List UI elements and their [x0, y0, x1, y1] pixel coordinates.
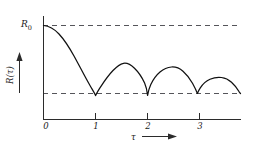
y-axis-label-wrapper: R(τ): [3, 48, 17, 106]
x-tick-label-0: 0: [39, 121, 53, 131]
y-axis-label: R(τ): [5, 52, 15, 98]
x-tick-label-2: 2: [141, 121, 155, 131]
figure-container: R0 R(τ) τ 0 1 2 3: [0, 0, 261, 150]
r0-axis-label: R0: [21, 19, 32, 32]
x-tick-label-1: 1: [89, 121, 103, 131]
y-axis-arrow: [16, 52, 22, 93]
x-tick-label-3: 3: [193, 121, 207, 131]
r0-symbol: R: [21, 19, 28, 29]
r0-subscript: 0: [28, 24, 32, 32]
x-axis-arrow: [142, 133, 177, 139]
r-tau-curve: [44, 26, 241, 96]
x-axis-label: τ: [131, 132, 136, 142]
